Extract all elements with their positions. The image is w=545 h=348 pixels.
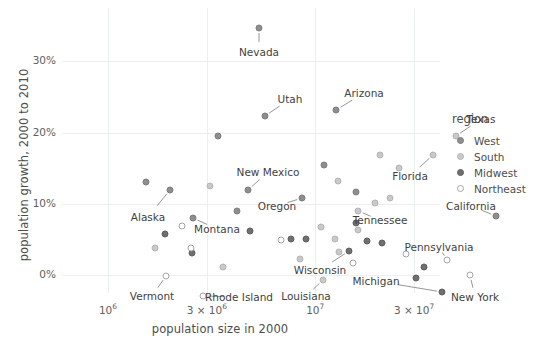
data-point <box>234 208 241 215</box>
data-point <box>143 179 150 186</box>
legend-dot-icon <box>457 137 464 144</box>
data-point <box>262 113 269 120</box>
data-point <box>288 236 295 243</box>
plot-panel: NevadaUtahArizonaTexasFloridaCaliforniaN… <box>62 8 440 293</box>
point-label: Alaska <box>131 211 165 223</box>
data-point <box>332 236 339 243</box>
legend-swatch-icon <box>452 153 468 160</box>
legend-dot-icon <box>457 169 464 176</box>
data-point <box>163 273 170 280</box>
data-point <box>256 25 263 32</box>
point-label: Vermont <box>130 290 174 302</box>
legend-swatch-icon <box>452 185 468 192</box>
data-point <box>321 162 328 169</box>
point-label: Tennessee <box>353 214 408 226</box>
label-connector <box>158 280 163 288</box>
legend-item-label: South <box>474 151 505 163</box>
data-point <box>493 213 500 220</box>
point-label: Montana <box>194 223 240 235</box>
y-tick-label: 20% <box>12 126 56 138</box>
data-point <box>152 245 159 252</box>
point-label: New York <box>451 291 499 303</box>
label-connector <box>252 180 260 187</box>
label-connector <box>398 285 437 292</box>
point-label: Michigan <box>352 275 399 287</box>
data-point <box>320 277 327 284</box>
legend-item-label: Midwest <box>474 167 517 179</box>
data-point <box>167 187 174 194</box>
point-label: Pennsylvania <box>405 241 474 253</box>
data-point <box>333 107 340 114</box>
data-point <box>350 260 357 267</box>
data-point <box>346 248 353 255</box>
data-point <box>207 183 214 190</box>
data-point <box>387 195 394 202</box>
legend-swatch-icon <box>452 169 468 176</box>
data-point <box>364 238 371 245</box>
data-point <box>335 178 342 185</box>
data-point <box>353 189 360 196</box>
legend-item-midwest[interactable]: Midwest <box>452 165 542 180</box>
x-tick-label: 107 <box>280 302 350 316</box>
data-point <box>439 289 446 296</box>
y-tick-label: 0% <box>12 268 56 280</box>
data-point <box>299 195 306 202</box>
label-connector <box>269 106 279 113</box>
data-point <box>190 215 197 222</box>
point-label: California <box>446 200 496 212</box>
legend-item-label: West <box>474 135 500 147</box>
legend-item-label: Northeast <box>474 183 526 195</box>
gridline-horizontal <box>62 61 440 62</box>
point-label: Wisconsin <box>294 264 346 276</box>
legend: region WestSouthMidwestNortheast <box>452 112 542 197</box>
data-point <box>303 236 310 243</box>
gridline-horizontal <box>62 133 440 134</box>
data-point <box>245 187 252 194</box>
data-point <box>247 228 254 235</box>
legend-item-northeast[interactable]: Northeast <box>452 181 542 196</box>
legend-entries: WestSouthMidwestNortheast <box>452 133 542 196</box>
label-connector <box>340 100 352 107</box>
label-connector <box>313 283 319 289</box>
data-point <box>467 272 474 279</box>
gridline-vertical <box>315 8 316 293</box>
point-label: New Mexico <box>237 166 300 178</box>
legend-item-south[interactable]: South <box>452 149 542 164</box>
gridline-vertical <box>207 8 208 293</box>
data-point <box>379 240 386 247</box>
scatter-chart: population growth, 2000 to 2010 populati… <box>0 0 545 348</box>
data-point <box>179 223 186 230</box>
point-label: Oregon <box>258 200 297 212</box>
label-connector <box>471 280 473 288</box>
data-point <box>297 256 304 263</box>
point-label: Rhode Island <box>205 291 273 303</box>
point-label: Florida <box>392 170 428 182</box>
data-point <box>444 257 451 264</box>
legend-dot-icon <box>457 185 464 192</box>
legend-item-west[interactable]: West <box>452 133 542 148</box>
gridline-horizontal <box>62 204 440 205</box>
data-point <box>430 152 437 159</box>
x-tick-label: 3 × 106 <box>172 302 242 316</box>
legend-dot-icon <box>457 153 464 160</box>
point-label: Utah <box>278 93 303 105</box>
data-point <box>355 227 362 234</box>
legend-swatch-icon <box>452 137 468 144</box>
y-tick-label: 30% <box>12 54 56 66</box>
x-axis-title: population size in 2000 <box>0 322 440 336</box>
x-tick-label: 106 <box>73 302 143 316</box>
x-tick-label: 3 × 107 <box>379 302 449 316</box>
gridline-vertical <box>108 8 109 293</box>
data-point <box>215 133 222 140</box>
data-point <box>220 264 227 271</box>
label-connector <box>420 158 430 167</box>
data-point <box>413 275 420 282</box>
data-point <box>372 200 379 207</box>
data-point <box>377 152 384 159</box>
data-point <box>336 249 343 256</box>
data-point <box>278 237 285 244</box>
y-tick-label: 10% <box>12 197 56 209</box>
data-point <box>162 231 169 238</box>
point-label: Arizona <box>344 87 383 99</box>
legend-title: region <box>452 112 542 126</box>
